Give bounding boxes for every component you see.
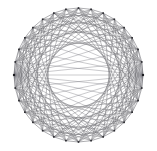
graph-node (90, 140, 92, 142)
graph-node (53, 136, 55, 138)
chord-edge (15, 8, 78, 62)
graph-node (131, 111, 133, 113)
graph-node (123, 27, 125, 29)
graph-node (141, 61, 143, 63)
graph-node (18, 100, 20, 102)
graph-node (141, 87, 143, 89)
graph-node (137, 49, 139, 51)
chord-edge (103, 13, 142, 62)
chord-edge (15, 88, 78, 142)
chord-edge (79, 88, 142, 142)
graph-node (78, 7, 80, 9)
graph-node (53, 12, 55, 14)
chord-edge (25, 38, 138, 50)
graph-canvas (0, 0, 157, 151)
chord-edge (19, 101, 132, 113)
graph-hub-node (13, 74, 15, 76)
graph-node (24, 111, 26, 113)
chord-edge (25, 101, 138, 113)
graph-node (114, 18, 116, 20)
graph-node (14, 61, 16, 63)
graph-node (78, 141, 80, 143)
graph-node (65, 140, 67, 142)
graph-node (102, 136, 104, 138)
chord-edge (15, 13, 54, 62)
graph-node (32, 27, 34, 29)
graph-node (90, 8, 92, 10)
graph-hub-node (142, 74, 144, 76)
graph-node (114, 130, 116, 132)
graph-node (42, 130, 44, 132)
chord-edge (79, 8, 142, 62)
graph-node (14, 87, 16, 89)
graph-node (24, 37, 26, 39)
graph-node (32, 122, 34, 124)
graph-node (123, 122, 125, 124)
chord-edge (19, 38, 132, 50)
graph-node (137, 100, 139, 102)
chord-edge (15, 88, 54, 137)
graph-node (18, 49, 20, 51)
graph-node (102, 12, 104, 14)
chord-edge (103, 88, 142, 137)
graph-node (65, 8, 67, 10)
graph-node (131, 37, 133, 39)
graph-figure (0, 0, 157, 151)
graph-node (42, 18, 44, 20)
